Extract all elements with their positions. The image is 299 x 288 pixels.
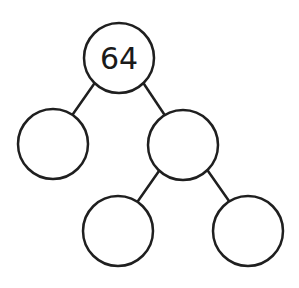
node-right-right — [213, 196, 283, 266]
node-right-left — [83, 196, 153, 266]
edge-right-rightleft — [138, 171, 159, 201]
edge-root-left — [73, 84, 94, 114]
edge-root-right — [144, 84, 164, 114]
node-root-label: 64 — [100, 41, 138, 76]
node-right — [148, 110, 218, 180]
node-left — [18, 109, 88, 179]
factor-tree-diagram: 64 — [0, 0, 299, 288]
edge-right-rightright — [208, 171, 229, 201]
